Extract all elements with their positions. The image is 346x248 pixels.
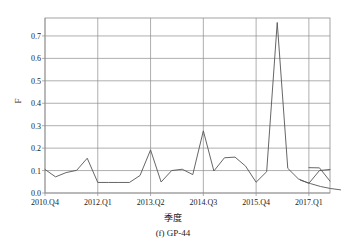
figure-caption: (f) GP-44 <box>0 228 346 238</box>
svg-text:0.1: 0.1 <box>31 167 41 176</box>
svg-text:2015.Q4: 2015.Q4 <box>242 198 270 207</box>
svg-text:2012.Q1: 2012.Q1 <box>84 198 112 207</box>
svg-text:2013.Q2: 2013.Q2 <box>137 198 165 207</box>
svg-text:0.3: 0.3 <box>31 122 41 131</box>
data-series-lines <box>45 22 341 189</box>
svg-text:2010.Q4: 2010.Q4 <box>31 198 59 207</box>
svg-text:0.0: 0.0 <box>31 189 41 198</box>
svg-text:2014.Q3: 2014.Q3 <box>189 198 217 207</box>
svg-text:0.4: 0.4 <box>31 99 41 108</box>
y-axis-ticks: 0.00.10.20.30.40.50.60.7 <box>31 32 45 198</box>
chart-figure: 0.00.10.20.30.40.50.60.7 2010.Q42012.Q12… <box>0 0 346 248</box>
y-axis-label: F <box>13 81 23 121</box>
x-axis-ticks: 2010.Q42012.Q12013.Q22014.Q32015.Q42017.… <box>31 193 323 207</box>
svg-text:0.6: 0.6 <box>31 54 41 63</box>
svg-text:0.5: 0.5 <box>31 77 41 86</box>
svg-text:0.7: 0.7 <box>31 32 41 41</box>
svg-text:2017.Q1: 2017.Q1 <box>295 198 323 207</box>
svg-text:0.2: 0.2 <box>31 144 41 153</box>
x-axis-label: 季度 <box>0 211 346 224</box>
